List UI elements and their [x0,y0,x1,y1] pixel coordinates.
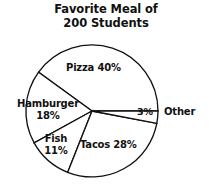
pie-label-pizza: Pizza 40% [66,62,121,74]
pie-label-tacos: Tacos 28% [80,139,137,151]
pie-label-fish: Fish 11% [36,133,76,156]
pie-label-fish-percent: 11% [44,145,67,156]
pie-chart-figure: Favorite Meal of 200 Students Pizza 40% … [0,0,212,196]
pie-label-hamburger-percent: 18% [36,110,59,121]
pie-label-hamburger-name: Hamburger [17,98,79,109]
pie-label-fish-name: Fish [45,133,68,144]
pie-label-other-name: Other [164,106,195,118]
pie-label-hamburger: Hamburger 18% [12,98,84,121]
pie-label-other-percent: 3% [137,106,153,118]
